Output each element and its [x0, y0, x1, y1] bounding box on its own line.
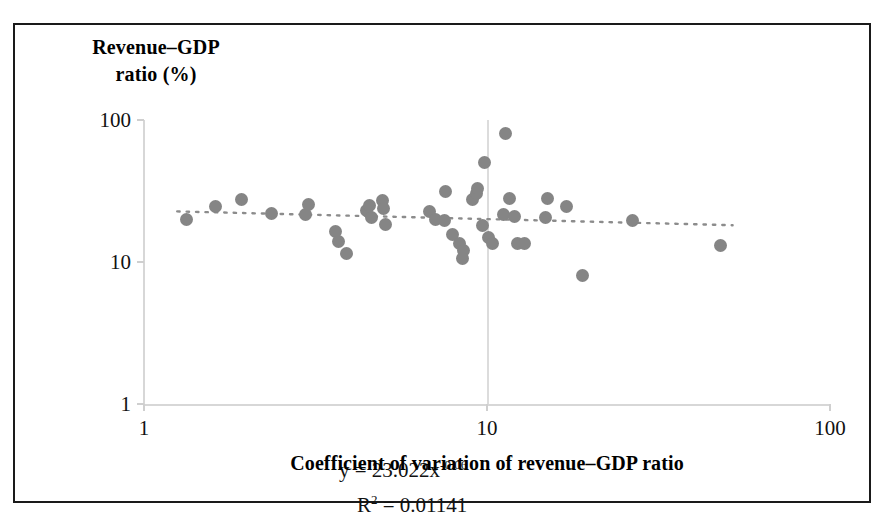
- scatter-point: [499, 127, 512, 140]
- y-axis-title-line2: ratio (%): [46, 61, 266, 88]
- scatter-point: [235, 193, 248, 206]
- scatter-point: [503, 192, 516, 205]
- y-tick-label: 100: [100, 108, 132, 133]
- x-tick-label: 1: [139, 416, 150, 441]
- scatter-point: [560, 200, 573, 213]
- r-squared-value: = 0.01141: [378, 493, 468, 517]
- y-axis-title-line1: Revenue–GDP: [92, 36, 220, 58]
- scatter-point: [377, 202, 390, 215]
- scatter-point: [180, 213, 193, 226]
- scatter-point: [438, 214, 451, 227]
- scatter-point: [439, 185, 452, 198]
- plot-area: 110100110100 y = 23.022x-0.06 R2 = 0.011…: [144, 120, 830, 404]
- regression-r-squared: R2 = 0.01141: [357, 485, 467, 520]
- x-tick-label: 10: [477, 416, 498, 441]
- scatter-point: [626, 214, 639, 227]
- scatter-point: [302, 198, 315, 211]
- scatter-point: [541, 192, 554, 205]
- x-tick-mark: [486, 404, 488, 411]
- x-tick-mark: [143, 404, 145, 411]
- scatter-point: [265, 207, 278, 220]
- y-axis-title: Revenue–GDP ratio (%): [46, 34, 266, 88]
- x-tick-mark: [829, 404, 831, 411]
- scatter-point: [365, 211, 378, 224]
- y-tick-label: 1: [121, 392, 132, 417]
- y-tick-mark: [137, 261, 144, 263]
- trendline-path: [177, 211, 732, 225]
- scatter-point: [508, 210, 521, 223]
- x-axis-title: Coefficient of variation of revenue–GDP …: [144, 452, 830, 475]
- y-tick-mark: [137, 119, 144, 121]
- r-squared-symbol: R: [357, 493, 371, 517]
- scatter-point: [379, 218, 392, 231]
- figure-root: Revenue–GDP ratio (%) 110100110100 y = 2…: [0, 0, 887, 532]
- y-tick-label: 10: [110, 250, 131, 275]
- x-tick-label: 100: [814, 416, 846, 441]
